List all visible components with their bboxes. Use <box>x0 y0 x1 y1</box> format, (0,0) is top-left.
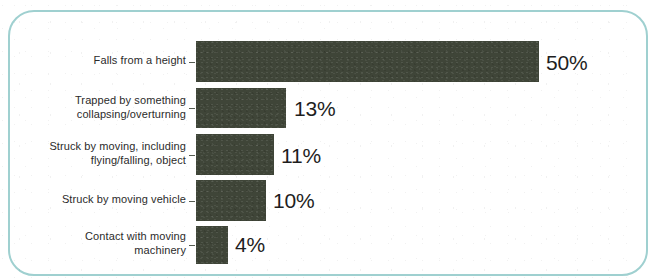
axis-tick <box>189 155 195 156</box>
bar-value-struck-by-moving-vehicle: 10% <box>273 190 314 211</box>
axis-tick <box>189 201 195 202</box>
axis-tick <box>189 108 195 109</box>
bar-struck-by-moving-vehicle <box>196 180 266 221</box>
category-label-struck-by-moving-object: Struck by moving, including flying/falli… <box>6 140 186 167</box>
bar-value-contact-with-moving-machinery: 4% <box>235 234 265 255</box>
bar-value-trapped-by-something-collapsing-overturning: 13% <box>294 98 335 119</box>
bar-value-falls-from-a-height: 50% <box>546 52 587 73</box>
bar-value-struck-by-moving-object: 11% <box>281 145 321 166</box>
bar-struck-by-moving-object <box>196 134 274 175</box>
bar-trapped-by-something-collapsing-overturning <box>196 88 286 128</box>
category-label-contact-with-moving-machinery: Contact with moving machinery <box>6 230 186 257</box>
category-label-falls-from-a-height: Falls from a height <box>6 54 186 68</box>
bar-contact-with-moving-machinery <box>196 226 228 264</box>
category-label-struck-by-moving-vehicle: Struck by moving vehicle <box>6 193 186 207</box>
axis-tick <box>189 245 195 246</box>
bar-falls-from-a-height <box>196 41 539 82</box>
category-label-trapped-by-something-collapsing-overturning: Trapped by something collapsing/overturn… <box>6 94 186 121</box>
axis-tick <box>189 62 195 63</box>
